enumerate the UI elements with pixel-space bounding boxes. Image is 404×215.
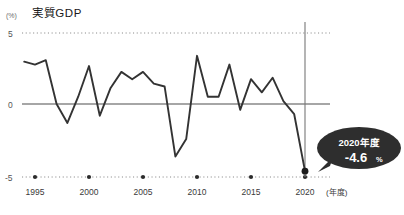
y-tick-label-0: 0 <box>8 100 13 110</box>
x-tick-dot-2010 <box>195 175 199 179</box>
x-tick-dot-2000 <box>87 175 91 179</box>
x-tick-label-2020: 2020 <box>296 187 315 197</box>
x-tick-label-2005: 2005 <box>134 187 153 197</box>
callout-year-label: 2020年度 <box>338 137 379 148</box>
x-tick-label-1995: 1995 <box>26 187 45 197</box>
chart-svg: (%) 実質GDP 5 0 -5 1995 2000 2005 2010 201… <box>0 0 404 215</box>
callout-unit-label: % <box>376 155 383 164</box>
y-tick-label-minus5: -5 <box>5 173 13 183</box>
x-axis-unit-label: (年度) <box>326 187 348 197</box>
chart-title: 実質GDP <box>32 6 82 19</box>
highlight-data-point[interactable] <box>302 168 309 175</box>
x-tick-dot-2005 <box>141 175 145 179</box>
callout-value-label: -4.6 <box>345 150 367 165</box>
gdp-series-line <box>24 56 305 171</box>
x-tick-label-2015: 2015 <box>242 187 261 197</box>
x-tick-dot-1995 <box>33 175 37 179</box>
x-tick-label-2000: 2000 <box>80 187 99 197</box>
real-gdp-chart: (%) 実質GDP 5 0 -5 1995 2000 2005 2010 201… <box>0 0 404 215</box>
x-tick-dot-2015 <box>249 175 253 179</box>
y-unit-label: (%) <box>6 12 17 20</box>
y-tick-label-5: 5 <box>8 29 13 39</box>
callout-bubble: 2020年度 -4.6 % <box>317 127 401 172</box>
x-tick-label-2010: 2010 <box>188 187 207 197</box>
